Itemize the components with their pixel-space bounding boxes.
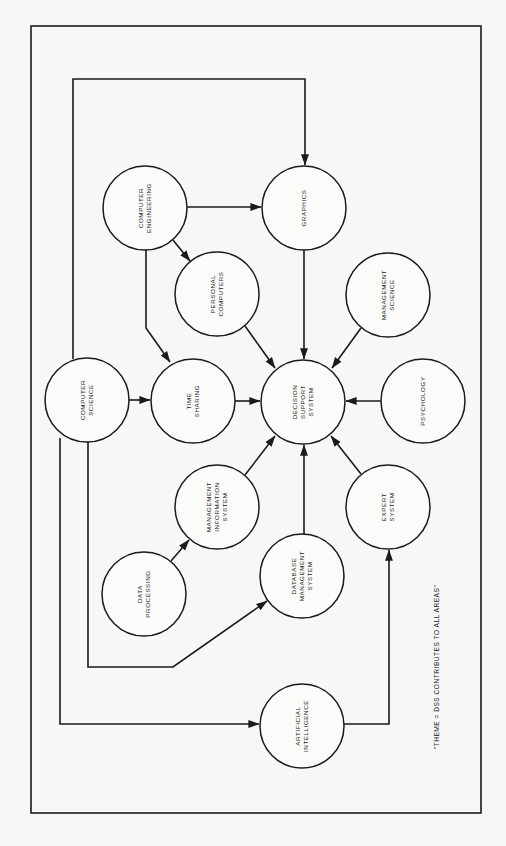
node-label: PSYCHOLOGY bbox=[419, 376, 426, 425]
node-personal-computers: PERSONALCOMPUTERS bbox=[175, 252, 259, 336]
dss-diagram: COMPUTERENGINEERINGGRAPHICSPERSONALCOMPU… bbox=[0, 0, 506, 846]
node-label: GRAPHICS bbox=[300, 189, 307, 226]
edge-expert-system-to-dss bbox=[331, 436, 361, 474]
edge-computer-engineering-to-time-sharing bbox=[146, 250, 170, 362]
node-label: COMPUTERSCIENCE bbox=[79, 380, 94, 420]
node-management-science: MANAGEMENTSCIENCE bbox=[346, 253, 430, 337]
diagram-caption: "THEME = DSS CONTRIBUTES TO ALL AREAS" bbox=[433, 585, 440, 750]
edge-mis-to-dss bbox=[245, 436, 275, 475]
node-psychology: PSYCHOLOGY bbox=[381, 359, 465, 443]
node-computer-science: COMPUTERSCIENCE bbox=[45, 358, 129, 442]
node-artificial-intelligence: ARTIFICIALINTELLIGENCE bbox=[260, 684, 344, 768]
node-decision-support-system: DECISIONSUPPORTSYSTEM bbox=[261, 360, 345, 444]
node-computer-engineering: COMPUTERENGINEERING bbox=[103, 166, 187, 250]
nodes: COMPUTERENGINEERINGGRAPHICSPERSONALCOMPU… bbox=[45, 166, 465, 768]
node-label: ARTIFICIALINTELLIGENCE bbox=[294, 700, 309, 752]
edge-data-processing-to-mis bbox=[171, 540, 189, 561]
node-database-management-system: DATABASEMANAGEMENTSYSTEM bbox=[260, 534, 344, 618]
node-label: DECISIONSUPPORTSYSTEM bbox=[291, 385, 314, 420]
node-time-sharing: TIMESHARING bbox=[151, 359, 235, 443]
node-label: COMPUTERENGINEERING bbox=[137, 183, 152, 233]
node-management-information-system: MANAGEMENTINFORMATIONSYSTEM bbox=[175, 465, 259, 549]
edge-management-science-to-dss bbox=[332, 328, 361, 368]
node-label: EXPERTSYSTEM bbox=[380, 492, 395, 521]
node-label: PERSONALCOMPUTERS bbox=[209, 272, 224, 317]
edge-computer-engineering-to-personal-computers bbox=[173, 240, 190, 261]
edge-ai-to-expert-system bbox=[344, 550, 389, 724]
edge-personal-computers-to-dss bbox=[245, 326, 275, 368]
node-data-processing: DATAPROCESSING bbox=[102, 552, 186, 636]
node-expert-system: EXPERTSYSTEM bbox=[346, 465, 430, 549]
node-graphics: GRAPHICS bbox=[262, 166, 346, 250]
